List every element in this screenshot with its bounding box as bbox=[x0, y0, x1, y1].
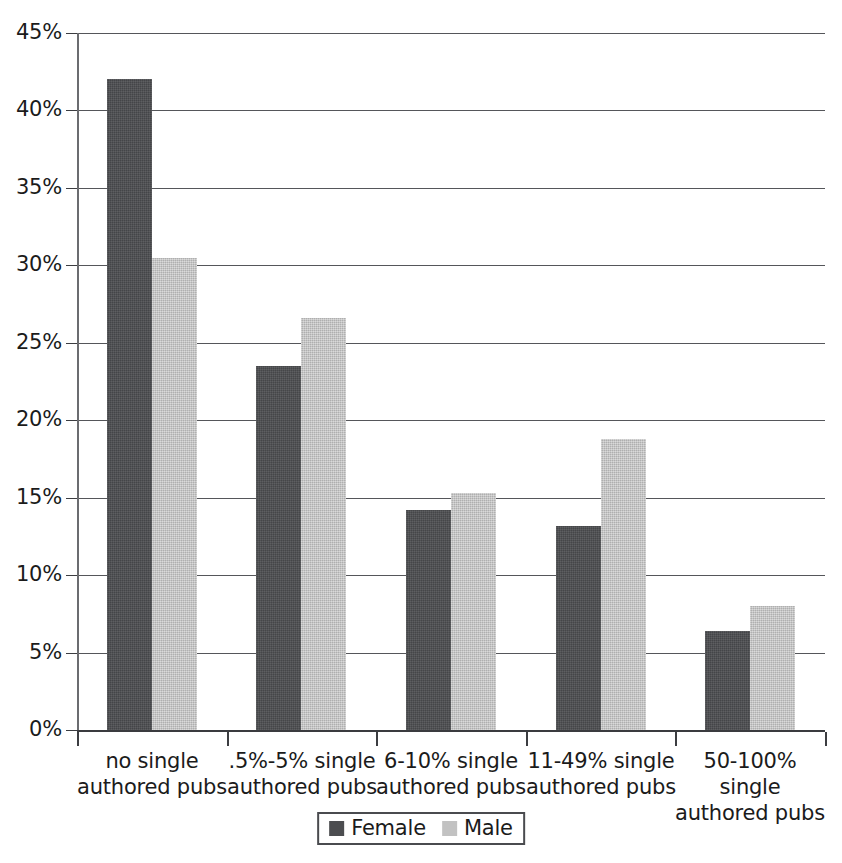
legend-swatch-icon bbox=[329, 821, 344, 836]
legend-label: Female bbox=[351, 817, 426, 839]
legend-label: Male bbox=[464, 817, 513, 839]
y-axis-tick-label: 30% bbox=[0, 254, 62, 275]
y-axis-tick-label: 40% bbox=[0, 99, 62, 120]
legend-swatch-icon bbox=[442, 821, 457, 836]
y-axis-tick-label: 25% bbox=[0, 332, 62, 353]
bar-female-2 bbox=[406, 510, 451, 730]
x-axis-category-label-line: 50-100% single bbox=[675, 748, 825, 800]
x-axis-category-label: no singleauthored pubs bbox=[77, 748, 227, 800]
legend-entry-female[interactable]: Female bbox=[329, 817, 426, 839]
x-axis-category-label-line: authored pubs bbox=[526, 774, 676, 800]
x-axis-category-label-line: authored pubs bbox=[77, 774, 227, 800]
x-tick-mark bbox=[227, 732, 229, 746]
y-tick-mark bbox=[66, 343, 77, 344]
x-tick-mark bbox=[825, 732, 827, 746]
x-tick-mark bbox=[675, 732, 677, 746]
x-tick-mark bbox=[376, 732, 378, 746]
y-axis-tick-label: 35% bbox=[0, 177, 62, 198]
legend-entry-male[interactable]: Male bbox=[442, 817, 513, 839]
y-tick-mark bbox=[66, 498, 77, 499]
y-tick-mark bbox=[66, 575, 77, 576]
x-axis-line bbox=[77, 730, 825, 732]
y-axis-tick-label: 10% bbox=[0, 564, 62, 585]
bar-chart: 0%5%10%15%20%25%30%35%40%45% no singleau… bbox=[0, 0, 842, 863]
y-axis-tick-label: 15% bbox=[0, 487, 62, 508]
x-axis-category-label: 50-100% singleauthored pubs bbox=[675, 748, 825, 826]
bar-male-4 bbox=[750, 606, 795, 730]
chart-legend: FemaleMale bbox=[317, 812, 525, 845]
y-tick-mark bbox=[66, 110, 77, 111]
y-axis-tick-label: 0% bbox=[0, 719, 62, 740]
bar-female-3 bbox=[556, 526, 601, 730]
bar-male-0 bbox=[152, 258, 197, 730]
bar-male-1 bbox=[301, 318, 346, 730]
y-axis-tick-label: 45% bbox=[0, 22, 62, 43]
x-tick-mark bbox=[77, 732, 79, 746]
x-axis-category-label-line: authored pubs bbox=[227, 774, 377, 800]
plot-area bbox=[77, 33, 825, 730]
x-axis-category-label-line: no single bbox=[77, 748, 227, 774]
x-axis-category-label: 11-49% singleauthored pubs bbox=[526, 748, 676, 800]
x-axis-category-label-line: 6-10% single bbox=[376, 748, 526, 774]
y-tick-mark bbox=[66, 33, 77, 34]
y-tick-mark bbox=[66, 420, 77, 421]
bar-female-4 bbox=[705, 631, 750, 730]
bar-female-0 bbox=[107, 79, 152, 730]
bar-male-2 bbox=[451, 493, 496, 730]
y-axis-tick-label: 20% bbox=[0, 409, 62, 430]
x-axis-category-label-line: authored pubs bbox=[376, 774, 526, 800]
y-tick-mark bbox=[66, 653, 77, 654]
bar-male-3 bbox=[601, 439, 646, 730]
x-axis-category-label: .5%-5% singleauthored pubs bbox=[227, 748, 377, 800]
y-tick-mark bbox=[66, 265, 77, 266]
x-axis-category-label: 6-10% singleauthored pubs bbox=[376, 748, 526, 800]
x-tick-mark bbox=[526, 732, 528, 746]
x-axis-category-label-line: .5%-5% single bbox=[227, 748, 377, 774]
x-axis-category-label-line: 11-49% single bbox=[526, 748, 676, 774]
bar-female-1 bbox=[256, 366, 301, 730]
y-axis-tick-label: 5% bbox=[0, 642, 62, 663]
x-axis-category-label-line: authored pubs bbox=[675, 800, 825, 826]
y-tick-mark bbox=[66, 188, 77, 189]
y-tick-mark bbox=[66, 730, 77, 731]
